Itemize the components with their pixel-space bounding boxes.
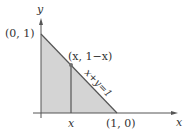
- x-tick-label: x: [68, 117, 75, 130]
- point-label: (x, 1−x): [68, 50, 112, 63]
- x-axis-arrow-icon: [171, 111, 178, 115]
- right-vertex-label: (1, 0): [106, 117, 136, 130]
- y-axis-arrow-icon: [39, 18, 43, 25]
- x-axis-label: x: [176, 116, 183, 129]
- diagram: y (0, 1) (x, 1−x) x+y=1 (1, 0) x x: [0, 0, 189, 134]
- y-axis-label: y: [36, 3, 44, 16]
- top-vertex-label: (0, 1): [5, 27, 35, 40]
- point-marker: [69, 63, 73, 67]
